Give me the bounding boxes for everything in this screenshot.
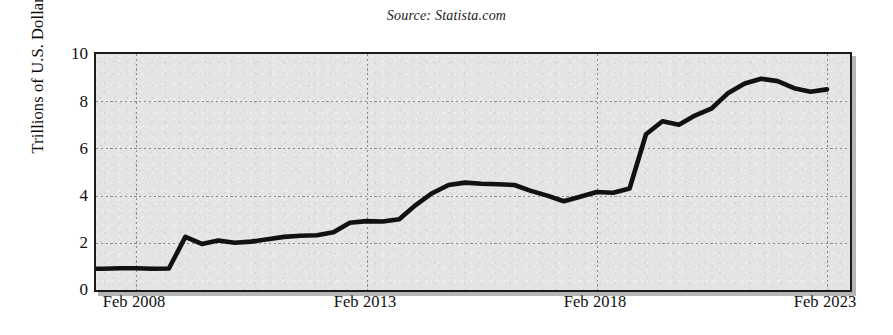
x-axis-tick-labels: Feb 2008 Feb 2013 Feb 2018 Feb 2023 <box>0 292 893 322</box>
plot-area <box>94 52 852 292</box>
horizontal-gridlines <box>96 102 850 244</box>
y-tick-label-4: 4 <box>58 187 88 204</box>
x-tick-label-feb-2008: Feb 2008 <box>103 292 166 312</box>
chart-figure: Source: Statista.com Trillions of U.S. D… <box>0 0 893 335</box>
y-tick-label-10: 10 <box>58 45 88 62</box>
y-tick-label-2: 2 <box>58 234 88 251</box>
y-axis-tick-labels: 0 2 4 6 8 10 <box>50 0 88 335</box>
source-caption: Source: Statista.com <box>0 8 893 24</box>
y-tick-label-8: 8 <box>58 93 88 110</box>
vertical-gridlines <box>137 54 828 290</box>
y-tick-label-6: 6 <box>58 140 88 157</box>
plot-canvas <box>96 54 850 290</box>
x-tick-label-feb-2018: Feb 2018 <box>564 292 627 312</box>
x-tick-label-feb-2023: Feb 2023 <box>794 292 857 312</box>
x-tick-label-feb-2013: Feb 2013 <box>334 292 397 312</box>
data-series-line <box>96 79 827 269</box>
y-axis-title: Trillions of U.S. Dollars <box>28 0 52 192</box>
